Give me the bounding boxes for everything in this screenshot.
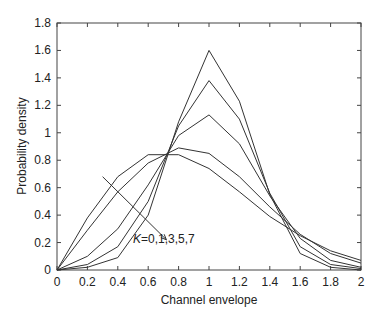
- x-tick-label: 0.6: [140, 275, 157, 289]
- axes: 00.20.40.60.811.21.41.61.8200.20.40.60.8…: [34, 16, 364, 289]
- series-line-K-5: [57, 81, 361, 270]
- y-tick-label: 0.6: [34, 181, 51, 195]
- series-line-K-0: [57, 155, 361, 270]
- y-tick-label: 1.2: [34, 98, 51, 112]
- chart: 00.20.40.60.811.21.41.61.8200.20.40.60.8…: [0, 0, 382, 320]
- k-values-label: K=0,1,3,5,7: [133, 232, 195, 246]
- series-line-K-7: [57, 50, 361, 270]
- x-tick-label: 2: [358, 275, 365, 289]
- arrow: [103, 177, 167, 240]
- y-tick-label: 1: [44, 126, 51, 140]
- y-tick-label: 0: [44, 263, 51, 277]
- data-lines: [57, 50, 361, 270]
- y-tick-label: 1.8: [34, 16, 51, 30]
- y-tick-label: 0.2: [34, 236, 51, 250]
- y-tick-label: 1.4: [34, 71, 51, 85]
- x-tick-label: 0.4: [109, 275, 126, 289]
- x-tick-label: 1.8: [322, 275, 339, 289]
- series-line-K-1: [57, 148, 361, 270]
- x-tick-label: 0.2: [79, 275, 96, 289]
- x-tick-label: 1.6: [292, 275, 309, 289]
- y-tick-label: 0.4: [34, 208, 51, 222]
- y-tick-label: 0.8: [34, 153, 51, 167]
- x-tick-label: 1.4: [261, 275, 278, 289]
- x-tick-label: 1: [206, 275, 213, 289]
- y-tick-label: 1.6: [34, 43, 51, 57]
- x-axis-label: Channel envelope: [161, 293, 258, 307]
- y-axis-label: Probability density: [15, 97, 29, 194]
- x-tick-label: 1.2: [231, 275, 248, 289]
- series-line-K-3: [57, 115, 361, 270]
- x-tick-label: 0.8: [170, 275, 187, 289]
- x-tick-label: 0: [54, 275, 61, 289]
- annotation: K=0,1,3,5,7: [103, 177, 195, 246]
